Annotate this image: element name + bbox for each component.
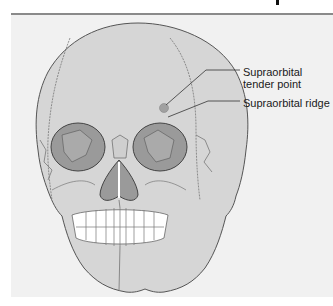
label-supraorbital-tender-point: Supraorbital tender point — [243, 66, 333, 90]
label-supraorbital-ridge: Supraorbital ridge — [243, 97, 330, 109]
skull-illustration — [0, 0, 333, 306]
teeth — [72, 208, 168, 246]
nasal-bridge — [112, 135, 128, 158]
supraorbital-tender-point-marker — [160, 104, 169, 113]
